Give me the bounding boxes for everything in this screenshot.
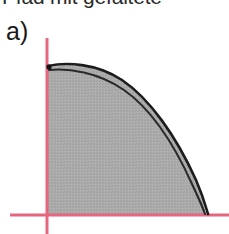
figure-panel-a: Pfad mit gefaltete a)	[0, 0, 229, 234]
plot-area	[0, 0, 229, 234]
filled-region	[48, 65, 206, 214]
path-origin-node	[46, 64, 51, 69]
